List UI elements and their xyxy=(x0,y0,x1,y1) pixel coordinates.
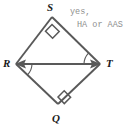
right-angle-square-S xyxy=(46,25,60,39)
vertex-label-S: S xyxy=(47,2,53,13)
vertex-label-R: R xyxy=(3,58,10,69)
geometry-figure: S R T Q yes, HA or AAS xyxy=(0,0,137,131)
segment-TQ xyxy=(58,64,100,104)
answer-line-2: HA or AAS xyxy=(70,19,123,32)
answer-annotation: yes, HA or AAS xyxy=(70,6,123,32)
diagonal-RT xyxy=(15,60,101,69)
answer-line-1: yes, xyxy=(70,6,123,19)
angle-arc-T xyxy=(84,53,89,64)
angle-arc-R xyxy=(28,64,33,75)
segment-RS xyxy=(16,17,52,64)
segment-QR xyxy=(16,64,58,104)
vertex-label-Q: Q xyxy=(52,113,60,124)
vertex-label-T: T xyxy=(106,58,113,69)
